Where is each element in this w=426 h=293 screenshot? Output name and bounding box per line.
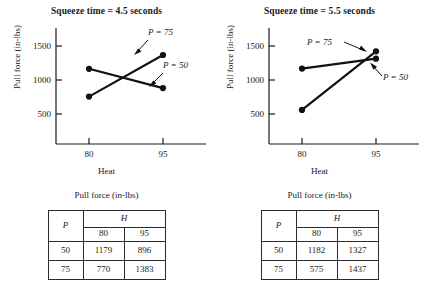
- table-cell-value: 896: [124, 242, 165, 261]
- chart-title: Squeeze time = 4.5 seconds: [0, 6, 213, 16]
- y-tick-label-500: 500: [251, 109, 265, 119]
- series-line-p75: [299, 48, 379, 113]
- series-label-p50: P = 50: [382, 72, 408, 82]
- x-tick-label-95: 95: [159, 149, 169, 159]
- table-subheader-80: 80: [83, 228, 124, 242]
- table-cell-p: 50: [48, 242, 83, 261]
- x-axis-ticks: 80 95: [85, 138, 169, 159]
- table-cell-p: 50: [261, 242, 296, 261]
- pull-force-table: P H 80 95 50 1179 896 75 770 1383: [48, 210, 166, 280]
- table-cell-p: 75: [261, 261, 296, 280]
- y-tick-label-1500: 1500: [246, 41, 265, 51]
- table-row: 75 575 1437: [261, 261, 378, 280]
- table-header-p: P: [261, 211, 296, 242]
- series-line-p50: [86, 66, 166, 92]
- table-caption: Pull force (in-lbs): [0, 190, 213, 200]
- table-row: 75 770 1383: [48, 261, 165, 280]
- table-row: 50 1182 1327: [261, 242, 378, 261]
- table-header-h: H: [296, 211, 378, 228]
- panel-squeeze-5-5: Squeeze time = 5.5 seconds Pull force (i…: [213, 0, 426, 293]
- x-tick-label-80: 80: [298, 149, 308, 159]
- series-line-p75: [86, 52, 166, 100]
- table-cell-value: 1383: [124, 261, 165, 280]
- y-tick-label-1500: 1500: [33, 41, 52, 51]
- series-label-p50: P = 50: [162, 60, 188, 70]
- y-axis-ticks: 1500 1000 500: [246, 41, 275, 119]
- x-tick-label-80: 80: [85, 149, 95, 159]
- y-tick-label-1000: 1000: [246, 75, 265, 85]
- pull-force-table: P H 80 95 50 1182 1327 75 575 1437: [261, 210, 379, 280]
- table-subheader-80: 80: [296, 228, 337, 242]
- table-cell-value: 770: [83, 261, 124, 280]
- table-header-row-group: P H: [48, 211, 165, 228]
- x-axis-ticks: 80 95: [298, 138, 382, 159]
- y-tick-label-1000: 1000: [33, 75, 52, 85]
- interaction-plot: 1500 1000 500 80 95 P = 75: [213, 18, 426, 163]
- series-annotation-p50: P = 50: [149, 60, 188, 87]
- interaction-plot: 1500 1000 500 80 95 P = 75: [0, 18, 213, 163]
- table-cell-value: 575: [296, 261, 337, 280]
- table-subheader-95: 95: [337, 228, 378, 242]
- table-caption: Pull force (in-lbs): [213, 190, 426, 200]
- table-header-row-group: P H: [261, 211, 378, 228]
- x-axis-title: Heat: [0, 166, 213, 176]
- table-cell-value: 1437: [337, 261, 378, 280]
- chart-title: Squeeze time = 5.5 seconds: [213, 6, 426, 16]
- x-axis-title: Heat: [213, 166, 426, 176]
- series-label-p75: P = 75: [306, 37, 332, 47]
- table-subheader-95: 95: [124, 228, 165, 242]
- table-cell-p: 75: [48, 261, 83, 280]
- y-axis-ticks: 1500 1000 500: [33, 41, 62, 119]
- table-cell-value: 1327: [337, 242, 378, 261]
- series-annotation-p75: P = 75: [306, 37, 367, 52]
- table-header-p: P: [48, 211, 83, 242]
- table-cell-value: 1179: [83, 242, 124, 261]
- series-annotation-p50: P = 50: [370, 63, 408, 83]
- x-tick-label-95: 95: [372, 149, 382, 159]
- y-tick-label-500: 500: [38, 109, 52, 119]
- series-annotation-p75: P = 75: [134, 27, 173, 55]
- series-label-p75: P = 75: [147, 27, 173, 37]
- panel-squeeze-4-5: Squeeze time = 4.5 seconds Pull force (i…: [0, 0, 213, 293]
- table-row: 50 1179 896: [48, 242, 165, 261]
- table-cell-value: 1182: [296, 242, 337, 261]
- table-header-h: H: [83, 211, 165, 228]
